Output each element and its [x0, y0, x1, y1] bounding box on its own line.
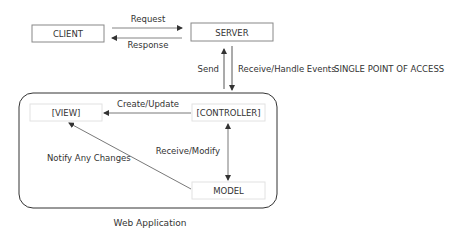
controller-label: [CONTROLLER]: [196, 108, 260, 118]
server-label: SERVER: [215, 28, 248, 38]
client-label: CLIENT: [53, 29, 84, 39]
model-node: MODEL: [192, 182, 265, 199]
notify-label: Notify Any Changes: [47, 153, 131, 163]
receive-handle-label: Receive/Handle Events: [238, 64, 336, 74]
create-update-label: Create/Update: [117, 99, 179, 109]
response-label: Response: [128, 40, 169, 50]
client-node: CLIENT: [32, 25, 104, 42]
server-node: SERVER: [191, 23, 273, 41]
view-label: [VIEW]: [52, 108, 81, 118]
single-point-label: SINGLE POINT OF ACCESS: [334, 64, 444, 74]
request-label: Request: [131, 14, 166, 24]
send-label: Send: [198, 64, 219, 74]
receive-modify-label: Receive/Modify: [156, 146, 220, 156]
view-node: [VIEW]: [30, 104, 102, 121]
mvc-diagram: CLIENT SERVER Request Response Send Rece…: [0, 0, 457, 236]
controller-node: [CONTROLLER]: [192, 104, 265, 121]
model-label: MODEL: [213, 186, 244, 196]
web-application-label: Web Application: [114, 218, 187, 228]
